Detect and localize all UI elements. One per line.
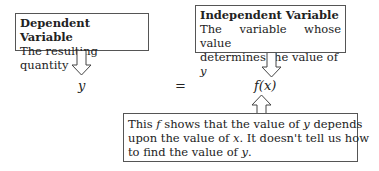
independent-variable-box: Independent Variable The variable whose … [195,5,346,53]
arrow-down-icon [262,53,282,79]
arrow-down-icon [72,51,92,77]
note-line-3: to find the value of y. [128,145,353,159]
equation-lhs: y [78,78,85,93]
equation-rhs: f(x) [254,78,276,93]
dependent-variable-box: Dependent Variable The resulting quantit… [15,13,149,51]
note-line-2: upon the value of x. It doesn't tell us … [128,131,353,145]
note-box: This f shows that the value of y depends… [123,113,358,162]
independent-variable-title: Independent Variable [200,8,341,22]
note-line-1: This f shows that the value of y depends [128,117,353,131]
arrow-up-icon [252,95,272,114]
equation-equals: = [175,78,186,93]
dependent-variable-title: Dependent Variable [20,16,144,44]
independent-variable-desc-1: The variable whose value [200,22,341,50]
